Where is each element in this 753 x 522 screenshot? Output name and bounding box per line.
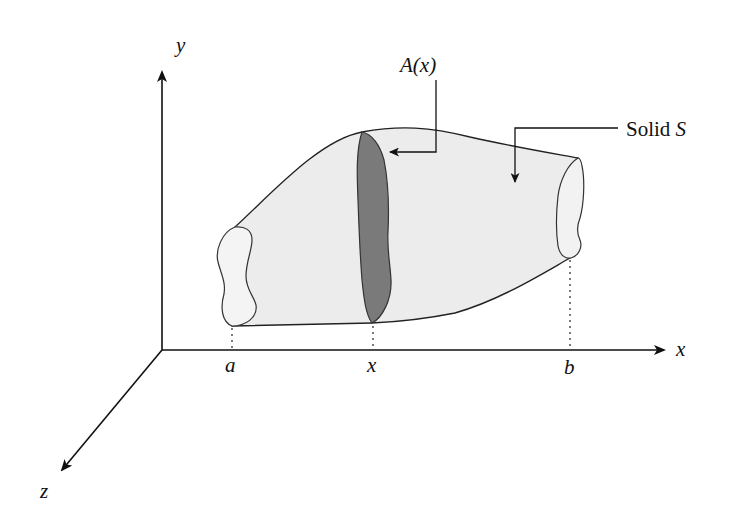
tick-label-a: a: [225, 353, 236, 377]
solid-body: [232, 128, 578, 326]
y-axis-label: y: [174, 33, 186, 57]
solid-label: Solid S: [626, 117, 687, 141]
tick-label-b: b: [564, 355, 575, 379]
cross-section-label: A(x): [398, 53, 436, 77]
z-axis-label: z: [39, 479, 48, 503]
z-axis: [62, 350, 162, 470]
solid-cross-section-diagram: y x z a x b A(x) Solid S: [0, 0, 753, 522]
x-axis-label: x: [675, 337, 686, 361]
solid-label-var: S: [676, 117, 687, 141]
tick-label-x: x: [366, 353, 377, 377]
solid-label-text: Solid: [626, 117, 676, 141]
